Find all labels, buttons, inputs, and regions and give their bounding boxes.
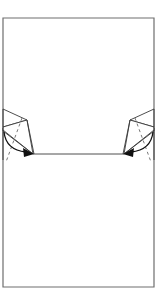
right-flap: [123, 108, 154, 162]
left-flap: [3, 108, 34, 162]
paper-top-edge: [3, 18, 154, 108]
origami-diagram: [0, 0, 157, 292]
